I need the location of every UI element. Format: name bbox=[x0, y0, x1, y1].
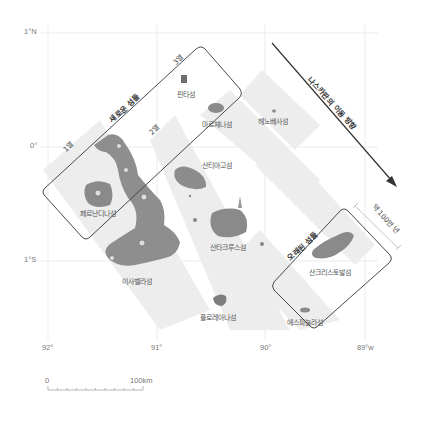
island-label-san-cristobal: 산크리스토발섬 bbox=[309, 267, 351, 277]
island-label-floreana: 플로레아나섬 bbox=[200, 312, 236, 322]
island-label-genovesa: 헤노베사섬 bbox=[258, 116, 288, 126]
island-label-isabela: 이사벨라섬 bbox=[122, 276, 152, 286]
island-pinta bbox=[181, 75, 187, 83]
island-label-marchena: 마르체나섬 bbox=[202, 119, 232, 129]
island-genovesa bbox=[272, 109, 276, 113]
lon-label-91: 91° bbox=[151, 343, 162, 352]
island-label-fernandina: 페르난디나섬 bbox=[80, 208, 116, 218]
map-canvas bbox=[0, 0, 430, 426]
lon-label-90: 90° bbox=[260, 343, 271, 352]
island-santa-cruz bbox=[210, 209, 247, 238]
island-floreana bbox=[213, 294, 227, 306]
lat-label-0: 0° bbox=[30, 141, 37, 150]
scale-start-label: 0 bbox=[45, 376, 49, 385]
scale-end-label: 100km bbox=[130, 376, 153, 385]
island-marchena bbox=[208, 103, 224, 113]
island-label-pinta: 핀타섬 bbox=[177, 89, 195, 99]
island-label-santiago: 산티아고섬 bbox=[202, 160, 232, 170]
lon-label-89w: 89°w bbox=[357, 343, 374, 352]
lat-label-1n: 1°N bbox=[24, 27, 37, 36]
lon-label-92: 92° bbox=[42, 343, 53, 352]
lat-label-1s: 1°S bbox=[24, 255, 36, 264]
island-espanola bbox=[300, 308, 310, 313]
island-label-santa-cruz: 산타크루스섬 bbox=[210, 242, 246, 252]
scale-bar bbox=[48, 386, 143, 390]
island-label-espanola: 에스파뇰라섬 bbox=[287, 317, 323, 327]
